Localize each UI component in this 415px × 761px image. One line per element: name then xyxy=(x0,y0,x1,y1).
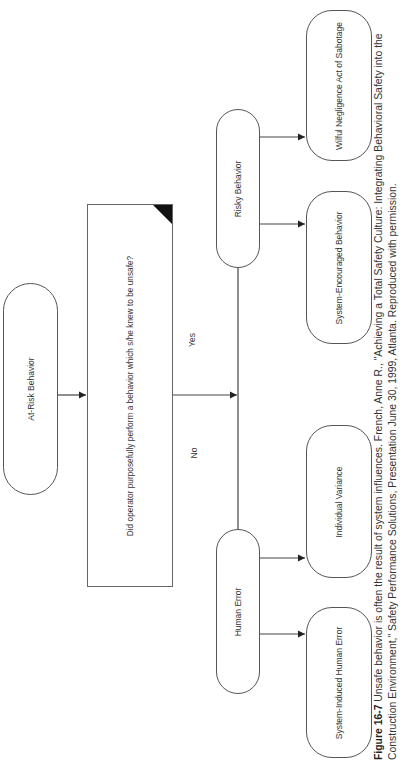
node-at-risk-behavior: At-Risk Behavior xyxy=(3,283,58,495)
node-decision: Did operator purposefully perform a beha… xyxy=(87,204,173,587)
node-label: Risky Behavior xyxy=(233,160,243,217)
node-wilful-negligence: Wilful Negligence Act of Sabotage xyxy=(306,10,372,161)
node-risky-behavior: Risky Behavior xyxy=(216,109,260,268)
node-individual-variance: Individual Variance xyxy=(306,425,372,578)
node-label: Individual Variance xyxy=(334,466,344,537)
node-system-induced-human-error: System-Induced Human Error xyxy=(306,607,372,758)
node-human-error: Human Error xyxy=(216,529,260,694)
figure-number: Figure 16-7 xyxy=(373,705,384,760)
edge-label-yes: Yes xyxy=(187,333,197,347)
figure-caption: Figure 16-7 Unsafe behavior is often the… xyxy=(372,0,412,760)
node-label: System-Encouraged Behavior xyxy=(334,211,344,324)
node-label: At-Risk Behavior xyxy=(26,357,36,420)
node-label: Human Error xyxy=(233,587,243,636)
node-system-encouraged-behavior: System-Encouraged Behavior xyxy=(306,191,372,344)
node-label: Did operator purposefully perform a beha… xyxy=(125,255,135,535)
node-label: Wilful Negligence Act of Sabotage xyxy=(334,21,344,149)
node-label: System-Induced Human Error xyxy=(334,626,344,738)
corner-marker-icon xyxy=(153,205,172,224)
edge-label-no: No xyxy=(189,448,199,459)
caption-text: Unsafe behavior is often the result of s… xyxy=(373,33,398,760)
